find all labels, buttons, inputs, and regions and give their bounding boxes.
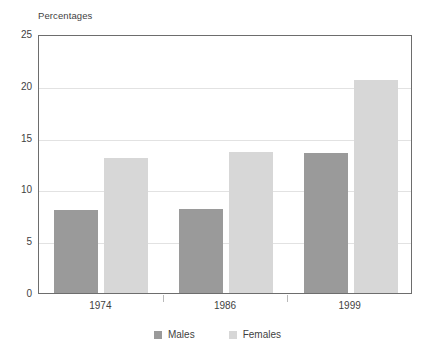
bars-layer [39, 36, 411, 293]
bar-females-1986 [229, 152, 273, 293]
bar-females-1974 [104, 158, 148, 293]
legend-item-females[interactable]: Females [229, 330, 281, 340]
x-axis: 197419861999 [38, 300, 412, 316]
bar-chart-figure: Percentages 0510152025 197419861999 Male… [0, 0, 435, 358]
x-tick-label: 1986 [214, 300, 236, 311]
legend-swatch-icon [229, 331, 237, 339]
chart-title: Percentages [38, 10, 92, 21]
y-tick-label: 20 [2, 82, 32, 92]
legend-item-males[interactable]: Males [154, 330, 195, 340]
bar-females-1999 [354, 80, 398, 293]
x-tick-label: 1999 [339, 300, 361, 311]
bar-males-1999 [304, 153, 348, 293]
legend-label: Males [168, 330, 195, 340]
y-axis: 0510152025 [0, 35, 32, 294]
x-tick-label: 1974 [89, 300, 111, 311]
y-tick-label: 5 [2, 237, 32, 247]
chart-legend: MalesFemales [0, 330, 435, 340]
bar-males-1974 [54, 210, 98, 293]
y-tick-label: 25 [2, 30, 32, 40]
legend-label: Females [243, 330, 281, 340]
y-tick-label: 15 [2, 134, 32, 144]
legend-swatch-icon [154, 331, 162, 339]
y-tick-label: 0 [2, 289, 32, 299]
y-tick-label: 10 [2, 185, 32, 195]
bar-males-1986 [179, 209, 223, 293]
plot-area [38, 35, 412, 294]
